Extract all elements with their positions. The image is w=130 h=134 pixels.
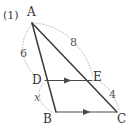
measure-label-ae: 8 [70, 37, 77, 48]
vertex-label-c: C [117, 113, 126, 125]
vertex-label-a: A [27, 6, 36, 18]
vertex-label-d: D [32, 74, 42, 86]
figure-canvas [0, 0, 130, 134]
vertex-label-e: E [93, 71, 102, 83]
guide-arc-ae [34, 23, 93, 76]
measure-label-db: x [34, 92, 40, 103]
vertex-label-b: B [43, 113, 52, 125]
item-number: (1) [3, 10, 19, 21]
measure-label-ec: 4 [109, 89, 116, 100]
geometry-figure: (1) A D B E C 6 8 4 x [0, 0, 130, 134]
measure-label-ad: 6 [20, 48, 27, 59]
